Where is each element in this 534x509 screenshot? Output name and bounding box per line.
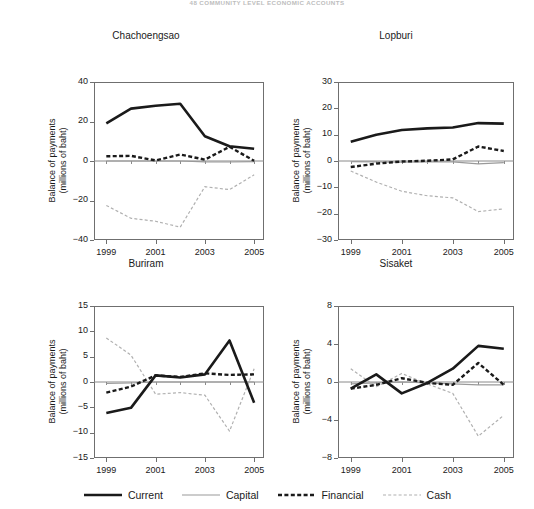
chart-panel-chachoengsao: ChachoengsaoBalance of payments(millions… [22, 30, 270, 258]
chart-panel-sisaket: SisaketBalance of payments(millions of b… [272, 258, 520, 480]
chart-legend: CurrentCapitalFinancialCash [0, 484, 534, 506]
series-line-cash [106, 175, 254, 227]
running-header: 48 COMMUNITY LEVEL ECONOMIC ACCOUNTS [0, 0, 534, 6]
legend-swatch-capital [181, 489, 221, 501]
legend-swatch-cash [382, 489, 422, 501]
series-layer-lopburi [272, 30, 520, 258]
series-layer-buriram [22, 258, 270, 480]
legend-swatch-current [83, 489, 123, 501]
series-line-cash [351, 171, 504, 212]
legend-label-current: Current [128, 489, 163, 501]
chart-panel-lopburi: LopburiBalance of payments(millions of b… [272, 30, 520, 258]
legend-label-capital: Capital [226, 489, 259, 501]
series-line-cash [351, 369, 504, 436]
series-line-financial [106, 147, 254, 161]
series-line-cash [106, 338, 254, 431]
legend-label-cash: Cash [427, 489, 452, 501]
chart-panel-buriram: BuriramBalance of payments(millions of b… [22, 258, 270, 480]
series-line-current [351, 123, 504, 142]
legend-label-financial: Financial [322, 489, 364, 501]
legend-item-financial: Financial [277, 489, 364, 501]
series-layer-sisaket [272, 258, 520, 480]
legend-item-current: Current [83, 489, 163, 501]
series-line-current [106, 340, 254, 412]
legend-item-cash: Cash [382, 489, 452, 501]
legend-swatch-financial [277, 489, 317, 501]
legend-item-capital: Capital [181, 489, 259, 501]
series-line-current [106, 104, 254, 149]
series-layer-chachoengsao [22, 30, 270, 258]
